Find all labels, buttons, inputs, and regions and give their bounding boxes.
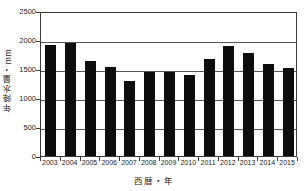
- x-tick-label-2004: 2004: [59, 159, 81, 167]
- y-tick-mark-1500: [36, 70, 40, 71]
- bar-2012: [223, 46, 234, 156]
- x-tick-label-2008: 2008: [138, 159, 160, 167]
- x-tick-label-2006: 2006: [98, 159, 120, 167]
- x-tick-label-2011: 2011: [197, 159, 219, 167]
- x-tick-label-2005: 2005: [78, 159, 100, 167]
- y-tick-mark-2000: [36, 41, 40, 42]
- bar-2006: [105, 67, 116, 156]
- x-tick-label-2013: 2013: [237, 159, 259, 167]
- bar-2008: [144, 72, 155, 156]
- x-axis-title: 西暦・年: [0, 174, 308, 186]
- x-tick-label-2003: 2003: [39, 159, 61, 167]
- bar-2009: [164, 72, 175, 156]
- bar-2011: [204, 59, 215, 156]
- bar-2005: [85, 61, 96, 156]
- bar-2010: [184, 75, 195, 156]
- y-tick-mark-1000: [36, 99, 40, 100]
- y-tick-mark-2500: [36, 12, 40, 13]
- x-tick-label-2014: 2014: [256, 159, 278, 167]
- x-tick-label-2012: 2012: [217, 159, 239, 167]
- bar-2003: [45, 45, 56, 156]
- bar-series: [41, 13, 296, 156]
- bar-2015: [283, 68, 294, 156]
- y-axis-title-text: 年降水量・mm: [4, 49, 13, 112]
- precipitation-bar-chart: 年降水量・mm 05001000150020002500 20032004200…: [0, 0, 308, 191]
- x-axis-tick-labels: 2003200420052006200720082009201020112012…: [0, 159, 308, 173]
- y-tick-label-2000: 2000: [19, 37, 36, 45]
- y-tick-mark-500: [36, 128, 40, 129]
- y-tick-label-500: 500: [23, 124, 36, 132]
- y-tick-label-2500: 2500: [19, 8, 36, 16]
- x-tick-label-2015: 2015: [276, 159, 298, 167]
- bar-2014: [263, 64, 274, 156]
- y-tick-label-1000: 1000: [19, 95, 36, 103]
- bar-2004: [65, 43, 76, 156]
- x-tick-label-2010: 2010: [177, 159, 199, 167]
- bar-2013: [243, 53, 254, 156]
- plot-area: [40, 12, 297, 157]
- y-tick-label-1500: 1500: [19, 66, 36, 74]
- x-tick-label-2009: 2009: [158, 159, 180, 167]
- x-tick-label-2007: 2007: [118, 159, 140, 167]
- bar-2007: [124, 81, 135, 156]
